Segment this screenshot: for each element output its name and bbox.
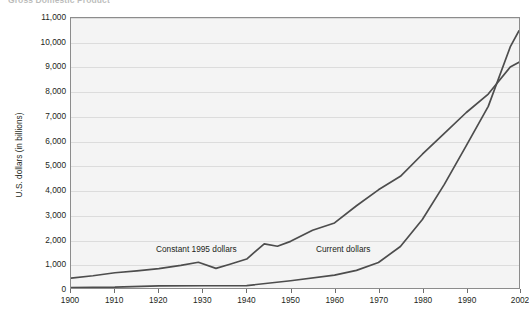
x-tick [520,289,521,293]
y-tick-label: 11,000 [4,12,66,22]
x-tick-label: 1920 [149,295,167,305]
x-tick-label: 1980 [414,295,432,305]
x-tick-label: 1960 [325,295,343,305]
y-tick-label: 3,000 [4,210,66,220]
x-tick [114,289,115,293]
x-tick [70,289,71,293]
x-tick-label: 1950 [281,295,299,305]
y-tick-label: 0 [4,284,66,294]
series-label-current-dollars: Current dollars [316,244,370,254]
x-tick-label: 1940 [237,295,255,305]
y-tick-label: 7,000 [4,111,66,121]
chart-title: Gross Domestic Product [8,0,110,5]
y-tick-label: 2,000 [4,235,66,245]
x-tick [246,289,247,293]
x-tick [467,289,468,293]
x-tick-label: 1930 [193,295,211,305]
x-tick-label: 1970 [370,295,388,305]
x-tick-label: 2002 [511,295,529,305]
y-tick-label: 6,000 [4,136,66,146]
y-tick-label: 8,000 [4,86,66,96]
x-tick-label: 1910 [105,295,123,305]
y-tick-label: 1,000 [4,259,66,269]
y-tick-label: 5,000 [4,160,66,170]
x-tick [379,289,380,293]
y-axis-tick-labels: 01,0002,0003,0004,0005,0006,0007,0008,00… [0,17,66,289]
x-axis-ticks [70,289,520,294]
x-tick [202,289,203,293]
x-axis-tick-labels: 1900191019201930194019501960197019801990… [0,295,527,309]
x-tick-label: 1990 [458,295,476,305]
x-tick [291,289,292,293]
series-lines [71,18,519,288]
plot-area [70,17,520,289]
x-tick [335,289,336,293]
y-tick-label: 9,000 [4,61,66,71]
series-label-constant-dollars: Constant 1995 dollars [156,244,237,254]
x-tick [158,289,159,293]
y-tick-label: 10,000 [4,37,66,47]
y-tick-label: 4,000 [4,185,66,195]
x-tick [423,289,424,293]
x-tick-label: 1900 [61,295,79,305]
series-line-1 [71,31,519,288]
